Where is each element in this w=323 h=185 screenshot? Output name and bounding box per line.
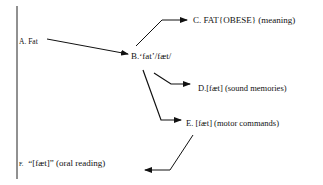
node-f-label: “[fæt]” (oral reading): [28, 158, 105, 168]
arrow-b-to-c: [136, 20, 187, 46]
pathway-diagram: A. Fat B.‘fat’/fæt/ C. FAT{OBESE} (meani…: [0, 0, 323, 185]
arrow-b-to-d: [154, 73, 190, 84]
node-f-oral-reading: F.“[fæt]” (oral reading): [19, 158, 105, 169]
node-d-sound-memories: D.[fæt] (sound memories): [198, 83, 287, 93]
node-a-printed-word: A. Fat: [19, 37, 38, 47]
node-e-motor-commands: E. [fæt] (motor commands): [186, 118, 279, 128]
node-b-orthographic-phonological: B.‘fat’/fæt/: [131, 51, 171, 61]
arrow-e-to-f: [145, 135, 193, 170]
node-f-letter: F.: [19, 161, 23, 167]
arrow-a-to-b: [47, 39, 128, 54]
node-c-meaning: C. FAT{OBESE} (meaning): [193, 15, 295, 25]
